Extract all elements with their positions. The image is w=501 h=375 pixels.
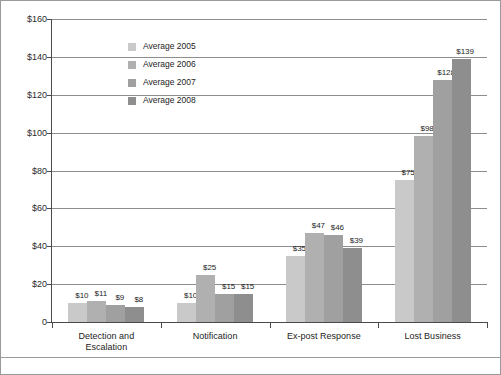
category-label-line: Ex-post Response — [264, 331, 384, 342]
legend-swatch — [128, 97, 136, 105]
y-axis-tick-mark — [47, 246, 52, 247]
category-label-line: Detection and — [46, 331, 166, 342]
y-axis-tick-mark — [47, 133, 52, 134]
legend-label: Average 2007 — [143, 77, 196, 87]
y-axis-tick-mark — [47, 284, 52, 285]
x-axis-tick-mark — [487, 322, 488, 328]
y-axis-tick-mark — [47, 95, 52, 96]
legend-swatch — [128, 61, 136, 69]
legend-swatch — [128, 79, 136, 87]
chart-legend: Average 2005Average 2006Average 2007Aver… — [128, 40, 238, 112]
x-axis-category-labels: Detection andEscalationNotificationEx-po… — [0, 0, 501, 375]
y-axis-tick-mark — [47, 19, 52, 20]
y-axis-tick-mark — [47, 171, 52, 172]
x-axis-category-label: Ex-post Response — [264, 331, 384, 342]
y-axis-tick-mark — [47, 57, 52, 58]
legend-item: Average 2007 — [128, 76, 238, 94]
y-axis-tick-mark — [47, 208, 52, 209]
x-axis-category-label: Lost Business — [373, 331, 493, 342]
legend-label: Average 2008 — [143, 95, 196, 105]
category-label-line: Lost Business — [373, 331, 493, 342]
category-label-line: Escalation — [46, 342, 166, 353]
legend-item: Average 2006 — [128, 58, 238, 76]
x-axis-category-label: Notification — [155, 331, 275, 342]
x-axis-tick-mark — [161, 322, 162, 328]
legend-label: Average 2005 — [143, 41, 196, 51]
legend-label: Average 2006 — [143, 59, 196, 69]
category-label-line: Notification — [155, 331, 275, 342]
x-axis-category-label: Detection andEscalation — [46, 331, 166, 353]
x-axis-tick-mark — [52, 322, 53, 328]
x-axis-tick-mark — [270, 322, 271, 328]
legend-item: Average 2008 — [128, 94, 238, 112]
legend-swatch — [128, 43, 136, 51]
bar-chart-figure: 0$20$40$60$80$100$120$140$160 $10$11$9$8… — [0, 0, 501, 375]
x-axis-tick-mark — [378, 322, 379, 328]
legend-item: Average 2005 — [128, 40, 238, 58]
